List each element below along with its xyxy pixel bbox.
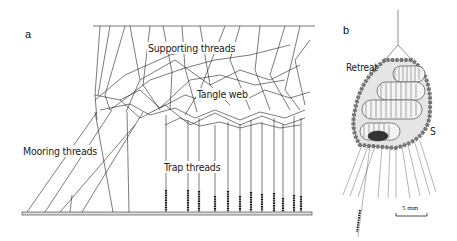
label-s: S xyxy=(429,126,437,138)
scale-bar-label: 5 mm xyxy=(402,204,418,212)
panel-label-b: b xyxy=(343,24,349,36)
label-mooring-threads: Mooring threads xyxy=(22,145,98,157)
label-tangle-web: Tangle web xyxy=(196,88,249,100)
label-supporting-threads: Supporting threads xyxy=(147,42,236,54)
retreat-diagram-b xyxy=(0,0,457,241)
panel-label-a: a xyxy=(25,28,31,40)
label-trap-threads: Trap threads xyxy=(163,161,221,173)
label-retreat: Retreat xyxy=(345,62,379,74)
